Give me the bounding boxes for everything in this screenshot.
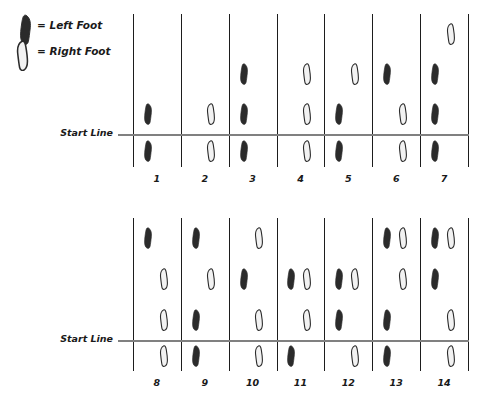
legend-item-right-foot: = Right Foot [14,38,111,64]
start-line [118,134,469,136]
left-foot-icon [283,345,297,367]
column-divider [277,14,278,167]
right-foot-icon [158,309,172,331]
left-foot-icon [379,309,393,331]
right-foot-icon [445,23,459,45]
column-divider [420,218,421,371]
column-divider [468,218,469,371]
column-number: 11 [277,377,325,388]
left-foot-icon [379,63,393,85]
legend: = Left Foot = Right Foot [14,12,111,64]
column-number: 9 [181,377,229,388]
footprint-diagram: = Left Foot = Right Foot Start Line12345… [0,0,490,407]
left-foot-icon [140,103,154,125]
right-foot-icon [349,63,363,85]
right-foot-icon [397,268,411,290]
right-foot-icon [349,268,363,290]
right-foot-icon [14,40,34,62]
left-foot-icon [14,14,34,36]
column-number: 4 [277,173,325,184]
column-number: 10 [229,377,277,388]
right-foot-icon [397,140,411,162]
left-foot-icon [379,345,393,367]
column-divider [229,14,230,167]
column-divider [133,14,134,167]
left-foot-icon [427,268,441,290]
column-number: 7 [420,173,468,184]
column-divider [277,218,278,371]
right-foot-icon [445,309,459,331]
right-foot-icon [301,268,315,290]
column-divider [468,14,469,167]
column-divider [229,218,230,371]
column-divider [133,218,134,371]
left-foot-icon [188,345,202,367]
left-foot-icon [140,140,154,162]
left-foot-icon [331,140,345,162]
right-foot-icon [158,268,172,290]
column-number: 2 [181,173,229,184]
legend-label-right-foot: = Right Foot [37,45,111,57]
right-foot-icon [158,345,172,367]
column-number: 3 [229,173,277,184]
column-divider [372,218,373,371]
legend-label-left-foot: = Left Foot [37,19,102,31]
column-divider [324,218,325,371]
column-number: 8 [133,377,181,388]
left-foot-icon [188,309,202,331]
column-divider [324,14,325,167]
column-divider [372,14,373,167]
left-foot-icon [331,268,345,290]
right-foot-icon [301,309,315,331]
right-foot-icon [301,103,315,125]
right-foot-icon [253,345,267,367]
start-line-label: Start Line [15,127,113,138]
left-foot-icon [427,227,441,249]
right-foot-icon [205,103,219,125]
right-foot-icon [397,103,411,125]
left-foot-icon [427,140,441,162]
left-foot-icon [427,103,441,125]
right-foot-icon [349,345,363,367]
left-foot-icon [331,309,345,331]
column-number: 5 [324,173,372,184]
column-number: 1 [133,173,181,184]
column-number: 12 [324,377,372,388]
column-divider [420,14,421,167]
right-foot-icon [301,140,315,162]
left-foot-icon [283,268,297,290]
right-foot-icon [253,227,267,249]
left-foot-icon [236,103,250,125]
right-foot-icon [397,227,411,249]
legend-item-left-foot: = Left Foot [14,12,111,38]
right-foot-icon [205,268,219,290]
column-number: 6 [372,173,420,184]
left-foot-icon [236,63,250,85]
left-foot-icon [379,227,393,249]
left-foot-icon [236,140,250,162]
right-foot-icon [253,309,267,331]
column-number: 14 [420,377,468,388]
left-foot-icon [236,268,250,290]
right-foot-icon [445,345,459,367]
column-divider [181,14,182,167]
left-foot-icon [140,227,154,249]
left-foot-icon [188,227,202,249]
start-line-label: Start Line [15,333,113,344]
column-number: 13 [372,377,420,388]
start-line [118,340,469,342]
right-foot-icon [301,63,315,85]
column-divider [181,218,182,371]
left-foot-icon [331,103,345,125]
left-foot-icon [427,63,441,85]
right-foot-icon [205,140,219,162]
right-foot-icon [445,227,459,249]
